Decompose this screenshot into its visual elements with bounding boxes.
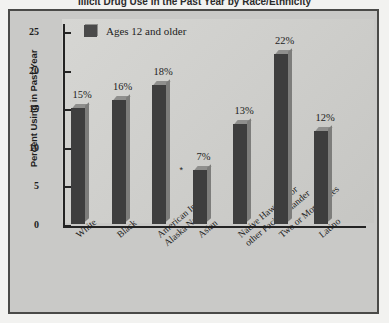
bar-value-label: 16% [103,81,143,92]
bar [314,131,328,224]
footnote-marker: * [180,165,184,175]
figure-scan: Illicit Drug Use in the Past Year by Rac… [0,0,389,323]
chart-panel: 0510152025 Percent Using in Past Year Ag… [8,9,379,314]
bar [112,100,126,224]
bar [152,85,166,224]
bar-value-label: 22% [265,35,305,46]
cropped-figure-title: Illicit Drug Use in the Past Year by Rac… [0,0,389,8]
cropped-figure-title-text: Illicit Drug Use in the Past Year by Rac… [0,0,389,7]
bar-value-label: 13% [224,105,264,116]
bar-value-label: 7% [184,151,224,162]
bar [71,108,85,224]
bar [233,124,247,224]
bar-series: 15%White16%Black18%American Indian/ Alas… [10,11,377,312]
bar-value-label: 15% [62,89,102,100]
bar [274,54,288,224]
bar [193,170,207,224]
bar-value-label: 12% [305,112,345,123]
bar-value-label: 18% [143,66,183,77]
